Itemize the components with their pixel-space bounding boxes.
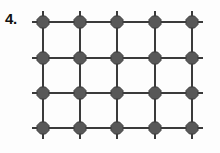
lattice-figure: 4.: [0, 0, 220, 153]
lattice-node: [74, 87, 86, 99]
lattice-edge-layer: [43, 22, 192, 128]
lattice-node: [149, 87, 161, 99]
lattice-node: [149, 16, 161, 28]
lattice-node: [186, 87, 198, 99]
lattice-node: [37, 87, 49, 99]
lattice-node: [111, 87, 123, 99]
lattice-node: [37, 52, 49, 64]
lattice-node: [186, 52, 198, 64]
lattice-node: [74, 16, 86, 28]
lattice-node: [37, 16, 49, 28]
lattice-node: [111, 52, 123, 64]
lattice-node: [149, 52, 161, 64]
lattice-node: [186, 122, 198, 134]
lattice-node: [74, 122, 86, 134]
lattice-diagram: [0, 0, 220, 153]
lattice-node: [149, 122, 161, 134]
lattice-node: [111, 122, 123, 134]
lattice-node: [186, 16, 198, 28]
lattice-node: [111, 16, 123, 28]
lattice-node: [37, 122, 49, 134]
lattice-node: [74, 52, 86, 64]
